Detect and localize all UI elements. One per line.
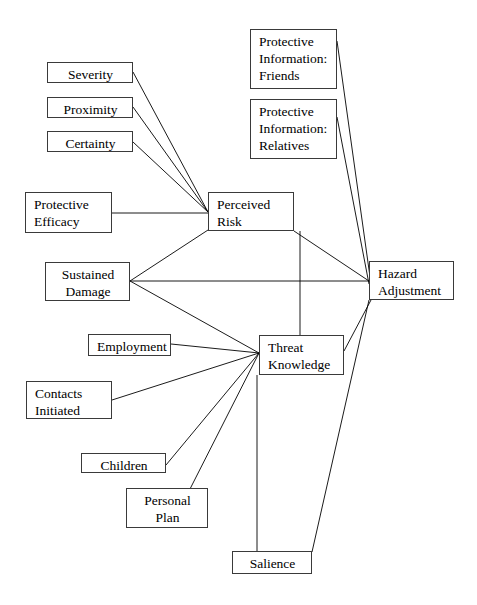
node-protective-info-relatives[interactable]: Protective Information: Relatives xyxy=(250,99,337,159)
node-proximity[interactable]: Proximity xyxy=(47,97,133,118)
node-protective-info-friends[interactable]: Protective Information: Friends xyxy=(250,29,337,89)
node-perceived-risk[interactable]: Perceived Risk xyxy=(208,192,294,231)
node-contacts-initiated[interactable]: Contacts Initiated xyxy=(26,381,112,419)
node-children[interactable]: Children xyxy=(81,453,166,473)
node-personal-plan[interactable]: Personal Plan xyxy=(126,488,208,528)
node-employment[interactable]: Employment xyxy=(88,334,171,356)
node-salience[interactable]: Salience xyxy=(232,551,312,574)
node-certainty[interactable]: Certainty xyxy=(47,131,133,152)
node-severity[interactable]: Severity xyxy=(47,62,133,83)
path-diagram-canvas: SeverityProximityCertaintyProtective Eff… xyxy=(0,0,477,605)
node-layer: SeverityProximityCertaintyProtective Eff… xyxy=(0,0,477,605)
node-sustained-damage[interactable]: Sustained Damage xyxy=(45,262,130,301)
node-threat-knowledge[interactable]: Threat Knowledge xyxy=(259,335,344,375)
node-protective-efficacy[interactable]: Protective Efficacy xyxy=(25,192,112,233)
node-hazard-adjustment[interactable]: Hazard Adjustment xyxy=(369,261,454,300)
